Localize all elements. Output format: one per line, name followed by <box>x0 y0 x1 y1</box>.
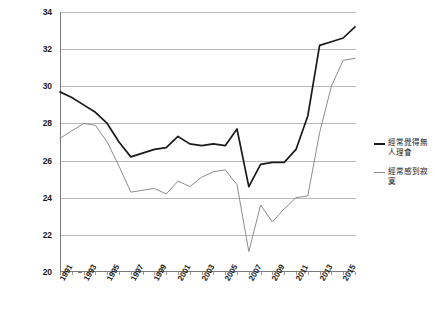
chart-legend: 經常覺得無人理會經常感到寂寞 <box>374 138 435 196</box>
legend-swatch-0 <box>374 143 385 145</box>
legend-entry-0[interactable]: 經常覺得無人理會 <box>374 138 435 158</box>
series-layer <box>0 0 435 319</box>
series-line-0 <box>60 27 355 187</box>
legend-label-1: 經常感到寂寞 <box>388 167 435 187</box>
legend-swatch-1 <box>374 172 385 173</box>
line-chart: 3432302826242220 19911993199519971999200… <box>0 0 435 319</box>
series-line-1 <box>60 58 355 251</box>
legend-label-0: 經常覺得無人理會 <box>388 138 435 158</box>
legend-entry-1[interactable]: 經常感到寂寞 <box>374 167 435 187</box>
